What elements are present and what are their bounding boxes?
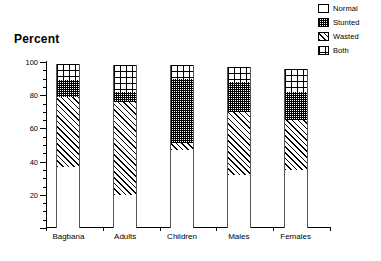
stunted-swatch-icon (318, 18, 329, 27)
plot-area (46, 62, 330, 228)
bar-segment-both (171, 65, 193, 78)
bar-children (170, 65, 194, 228)
bar-segment-both (57, 64, 79, 81)
x-axis-label-females: Females (280, 232, 311, 241)
bar-segment-both (228, 67, 250, 82)
x-tick (160, 227, 161, 231)
x-tick (273, 227, 274, 231)
bar-adults (113, 65, 137, 228)
bar-bagbana (56, 64, 80, 228)
legend-label-stunted: Stunted (333, 18, 360, 27)
bar-segment-stunted (285, 92, 307, 120)
bar-segment-normal (228, 175, 250, 228)
bar-segment-wasted (114, 102, 136, 195)
y-tick-label: 100 (25, 58, 38, 67)
bar-segment-both (285, 69, 307, 92)
both-swatch-icon (318, 46, 329, 55)
legend-item-wasted: Wasted (318, 30, 380, 43)
x-tick (330, 227, 331, 231)
legend-item-stunted: Stunted (318, 16, 380, 29)
bar-segment-normal (171, 150, 193, 228)
normal-swatch-icon (318, 4, 329, 13)
y-tick-label: 40 (30, 157, 38, 166)
bar-segment-both (114, 65, 136, 92)
x-tick (46, 227, 47, 231)
bar-segment-normal (57, 167, 79, 228)
y-axis-title: Percent (14, 32, 59, 46)
legend-item-normal: Normal (318, 2, 380, 15)
x-axis-label-males: Males (228, 232, 249, 241)
chart-legend: Normal Stunted Wasted Both (318, 2, 380, 58)
x-axis-label-children: Children (167, 232, 197, 241)
legend-label-normal: Normal (333, 4, 358, 13)
bar-segment-wasted (228, 112, 250, 175)
bar-segment-wasted (171, 143, 193, 150)
bar-segment-stunted (57, 80, 79, 97)
legend-item-both: Both (318, 44, 380, 57)
x-axis-label-bagbana: Bagbana (52, 232, 84, 241)
bar-segment-stunted (171, 79, 193, 144)
bar-segment-normal (114, 195, 136, 228)
bar-segment-stunted (228, 82, 250, 112)
legend-label-both: Both (333, 46, 349, 55)
bar-segment-wasted (57, 97, 79, 167)
bar-segment-stunted (114, 92, 136, 102)
bar-females (284, 69, 308, 228)
x-axis-label-adults: Adults (114, 232, 136, 241)
bar-segment-normal (285, 170, 307, 228)
x-tick (216, 227, 217, 231)
stacked-bar-chart: Normal Stunted Wasted Both Percent 20406… (0, 0, 381, 261)
x-tick (103, 227, 104, 231)
legend-label-wasted: Wasted (333, 32, 359, 41)
y-tick-label: 80 (30, 91, 38, 100)
bar-males (227, 67, 251, 228)
bar-segment-wasted (285, 120, 307, 170)
wasted-swatch-icon (318, 32, 329, 41)
y-tick-label: 20 (30, 190, 38, 199)
y-tick-label: 60 (30, 124, 38, 133)
